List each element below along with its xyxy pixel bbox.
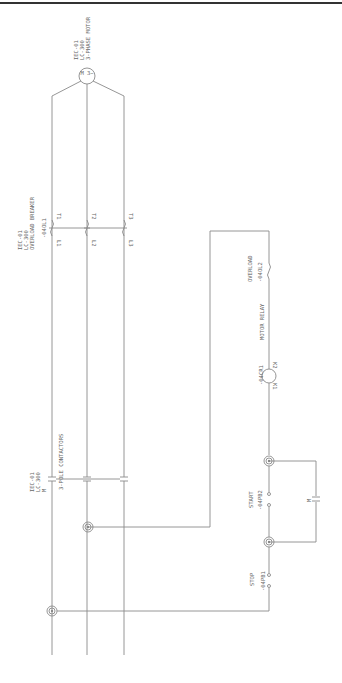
start-button-contact-a bbox=[268, 493, 271, 496]
stop-button-label: STOP bbox=[249, 572, 255, 586]
start-button-device: -04PB2 bbox=[257, 490, 263, 510]
overload-2-icon bbox=[268, 263, 271, 279]
control-circuit: -04OL2 OVERLOAD MOTOR RELAY -04CR1 K1 K2… bbox=[47, 231, 320, 616]
seal-in-wire-top bbox=[269, 461, 316, 496]
motor-label: 3-PHASE MOTOR bbox=[85, 16, 91, 60]
stop-button-device: -04PB1 bbox=[260, 571, 266, 591]
phase-wire-3 bbox=[93, 81, 124, 655]
contactor-label: 3-POLE CONTACTORS bbox=[58, 434, 64, 490]
relay-coil-icon bbox=[262, 369, 276, 383]
terminal-l2: L2 bbox=[91, 240, 97, 247]
stop-button-contact-a bbox=[268, 574, 271, 577]
start-button-label: START bbox=[248, 491, 254, 508]
control-wire-bottom bbox=[57, 588, 269, 611]
terminal-t2: T2 bbox=[91, 213, 97, 220]
terminal-t3: T3 bbox=[128, 213, 134, 220]
breaker-label: OVERLOAD BREAKER bbox=[29, 196, 35, 250]
relay-label: MOTOR RELAY bbox=[259, 303, 265, 340]
relay-terminal-k1: K1 bbox=[272, 383, 278, 390]
seal-in-symbol: M bbox=[306, 498, 312, 502]
schematic-diagram: M 3~ IEC-01 LC-300 3-PHASE MOTOR T1 T2 T… bbox=[0, 0, 342, 683]
breaker-device-tag: -04OL1 bbox=[41, 218, 47, 238]
motor: M 3~ IEC-01 LC-300 3-PHASE MOTOR bbox=[73, 16, 95, 84]
terminal-l3: L3 bbox=[128, 240, 134, 247]
contactor-pole-3 bbox=[120, 477, 128, 481]
junction-dots bbox=[47, 456, 274, 616]
contactor: IEC-01 LC-300 M 3-POLE CONTACTORS bbox=[29, 434, 128, 492]
seal-in-wire-bottom bbox=[269, 502, 316, 542]
phase-wire-1 bbox=[52, 81, 81, 655]
start-button-contact-b bbox=[268, 504, 271, 507]
control-wire-top bbox=[88, 231, 269, 527]
stop-button-contact-b bbox=[268, 585, 271, 588]
relay-device: -04CR1 bbox=[258, 365, 264, 385]
relay-terminal-k2: K2 bbox=[272, 362, 278, 369]
overload-2-device: -04OL2 bbox=[257, 262, 263, 282]
overload-breaker: T1 T2 T3 L1 L2 L3 -04OL1 IEC-01 LC-300 O… bbox=[17, 196, 134, 250]
contactor-pole-1 bbox=[48, 477, 56, 481]
terminal-t1: T1 bbox=[56, 213, 62, 220]
motor-symbol-text: M 3~ bbox=[80, 70, 94, 76]
power-wires bbox=[52, 81, 124, 655]
terminal-l1: L1 bbox=[56, 240, 62, 247]
contactor-symbol: M bbox=[41, 488, 47, 492]
overload-2-label: OVERLOAD bbox=[247, 256, 253, 283]
